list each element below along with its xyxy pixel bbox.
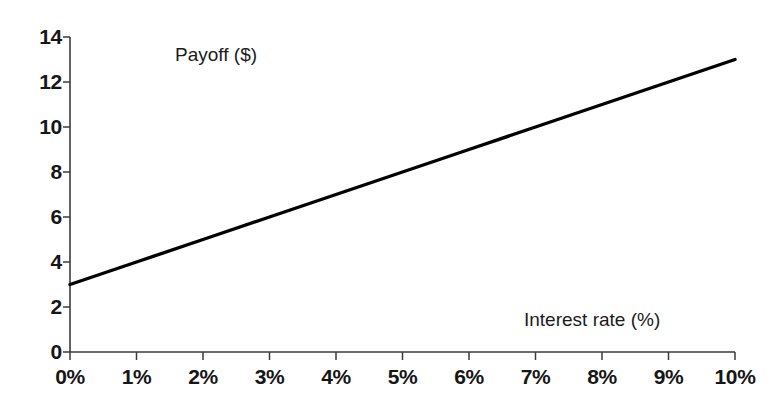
- x-axis-title: Interest rate (%): [524, 310, 660, 329]
- data-series: [70, 60, 735, 285]
- chart-canvas: 02468101214 0%1%2%3%4%5%6%7%8%9%10% Payo…: [0, 0, 773, 411]
- x-axis-tick-label: 10%: [690, 366, 773, 387]
- y-axis-tick-label: 8: [20, 161, 62, 182]
- y-axis-tick-label: 10: [20, 116, 62, 137]
- y-axis-tick-label: 14: [20, 26, 62, 47]
- y-axis-tick-label: 6: [20, 206, 62, 227]
- y-axis-tick-labels: 02468101214: [14, 37, 62, 352]
- y-axis-tick-label: 2: [20, 296, 62, 317]
- x-axis-tick-labels: 0%1%2%3%4%5%6%7%8%9%10%: [70, 366, 735, 396]
- chart-svg: [0, 0, 773, 411]
- y-axis-tick-label: 12: [20, 71, 62, 92]
- y-axis-tick-label: 0: [20, 341, 62, 362]
- y-axis-title: Payoff ($): [175, 45, 257, 64]
- y-axis-tick-label: 4: [20, 251, 62, 272]
- axes: [70, 37, 735, 352]
